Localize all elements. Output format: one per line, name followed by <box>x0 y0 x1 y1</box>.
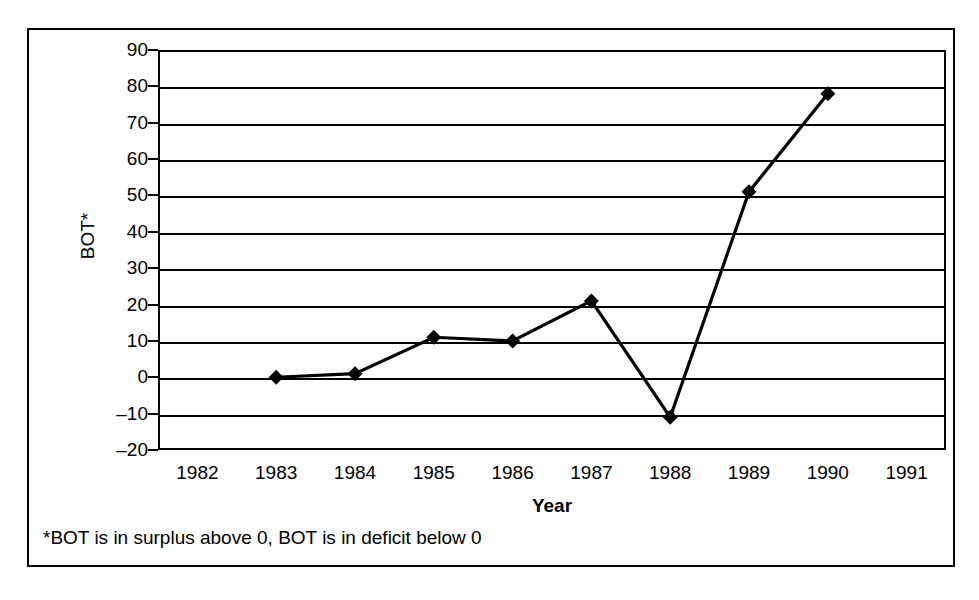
y-tick-label: 40 <box>88 222 148 241</box>
x-tick-label: 1982 <box>152 462 242 484</box>
y-tick-label: –10 <box>88 404 148 423</box>
x-tick-label: 1985 <box>389 462 479 484</box>
data-point-marker <box>348 366 363 381</box>
x-tick-label: 1987 <box>546 462 636 484</box>
y-tick-mark <box>148 340 158 342</box>
data-point-marker <box>505 333 520 348</box>
y-tick-mark <box>148 49 158 51</box>
y-tick-label: 80 <box>88 76 148 95</box>
x-tick-label: 1989 <box>704 462 794 484</box>
x-tick-label: 1990 <box>783 462 873 484</box>
y-tick-label: –20 <box>88 440 148 459</box>
data-point-marker <box>426 330 441 345</box>
x-tick-label: 1991 <box>862 462 952 484</box>
y-tick-label: 70 <box>88 113 148 132</box>
y-tick-label: 20 <box>88 295 148 314</box>
x-axis-title: Year <box>158 495 946 517</box>
data-point-marker <box>269 370 284 385</box>
y-tick-mark <box>148 85 158 87</box>
y-tick-mark <box>148 376 158 378</box>
y-tick-label: 90 <box>88 40 148 59</box>
y-tick-mark <box>148 413 158 415</box>
y-tick-mark <box>148 304 158 306</box>
y-tick-mark <box>148 194 158 196</box>
x-tick-label: 1984 <box>310 462 400 484</box>
y-tick-label: 60 <box>88 149 148 168</box>
x-axis-tick-labels: 1982198319841985198619871988198919901991 <box>158 462 946 490</box>
y-tick-mark <box>148 267 158 269</box>
y-tick-mark <box>148 231 158 233</box>
y-tick-mark <box>148 122 158 124</box>
y-tick-label: 50 <box>88 185 148 204</box>
x-tick-label: 1988 <box>625 462 715 484</box>
y-tick-label: 30 <box>88 258 148 277</box>
y-tick-mark <box>148 449 158 451</box>
series-polyline <box>276 94 828 418</box>
y-axis-tick-labels: 9080706050403020100–10–20 <box>86 50 148 450</box>
y-tick-label: 10 <box>88 331 148 350</box>
data-series-line <box>158 50 946 450</box>
chart-figure: BOT* 9080706050403020100–10–20 198219831… <box>0 0 979 600</box>
y-tick-label: 0 <box>88 367 148 386</box>
chart-footnote: *BOT is in surplus above 0, BOT is in de… <box>43 527 482 549</box>
x-tick-label: 1986 <box>468 462 558 484</box>
y-tick-mark <box>148 158 158 160</box>
series-markers <box>269 86 836 425</box>
x-tick-label: 1983 <box>231 462 321 484</box>
